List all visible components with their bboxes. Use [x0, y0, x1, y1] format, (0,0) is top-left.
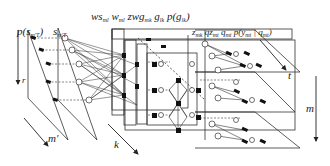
ps-node [45, 79, 51, 84]
ps-node [38, 47, 44, 52]
label-top-group: wsml wml zwgmk glk p(glk) [91, 11, 190, 23]
label-ws: ws [91, 10, 103, 22]
axis-label-t: t [288, 70, 291, 81]
label-g-sub: lk [160, 17, 164, 23]
label-zwg: zwg [127, 10, 144, 22]
label-p-s-text: p(s [17, 25, 30, 37]
axis-label-r: r [22, 76, 26, 85]
axis-label-m-prime: m' [48, 133, 58, 144]
label-py-close: ) [269, 27, 272, 37]
label-p-s: p(sm'T) [17, 26, 43, 38]
label-ws-sub: ml [103, 17, 109, 23]
label-pg-close: ) [186, 10, 190, 22]
ps-plane [28, 30, 68, 140]
label-qz: qz [205, 27, 213, 37]
label-z-sub: mk [196, 32, 203, 38]
label-zwg-sub: mk [145, 17, 152, 23]
label-py: p(y [234, 27, 246, 37]
m-prime-axis-arrow [24, 118, 48, 146]
label-w-sub: ml [119, 17, 125, 23]
layer-frame-3 [124, 40, 136, 125]
label-py-mid: | q [251, 27, 262, 37]
label-s: sm'T [53, 26, 66, 38]
s-node [69, 47, 75, 53]
s-node [86, 97, 92, 103]
label-right-group: zmk qzmt qmt p(ymt | qmt) [192, 28, 272, 38]
ps-node [45, 61, 51, 66]
label-qz-sub: mt [213, 32, 219, 38]
s-node [76, 79, 82, 85]
label-pg: p(g [167, 10, 182, 22]
label-p-s-close: ) [39, 25, 43, 37]
axis-label-m: m [306, 103, 314, 114]
ps-node [52, 97, 58, 102]
label-s-sub: m'T [57, 32, 66, 38]
label-q-sub: mt [226, 32, 232, 38]
label-w: w [111, 10, 118, 22]
s-node [76, 61, 82, 67]
plane-mid [195, 72, 295, 112]
k-axis-arrow [108, 124, 138, 154]
axis-label-k: k [114, 139, 119, 150]
